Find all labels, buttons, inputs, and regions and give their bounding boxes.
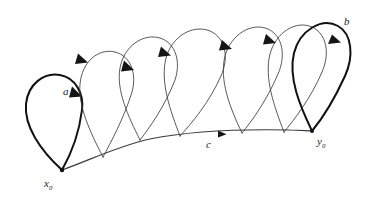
label-x0: x0 — [44, 178, 52, 192]
arrowhead-c — [218, 130, 227, 137]
loop-b-path — [292, 23, 350, 131]
arrowhead-3 — [121, 61, 134, 72]
loop-3-path — [119, 37, 177, 140]
arrowhead-2 — [75, 54, 88, 65]
node-y0 — [310, 129, 314, 133]
label-b: b — [344, 16, 350, 27]
label-c: c — [206, 139, 211, 150]
loop-diagram-svg — [0, 0, 366, 204]
arrowhead-b — [328, 35, 341, 45]
loop-4-path — [164, 29, 225, 136]
label-y0-subscript: 0 — [322, 142, 325, 149]
loop-6-path — [268, 25, 326, 132]
node-x0 — [60, 168, 64, 172]
arrowhead-6 — [263, 34, 276, 45]
label-a: a — [63, 86, 69, 97]
label-x0-subscript: 0 — [49, 184, 52, 191]
arrowhead-5 — [219, 40, 232, 51]
label-y0: y0 — [317, 136, 325, 150]
figure-canvas: a b c x0 y0 — [0, 0, 366, 204]
arrowhead-4 — [158, 47, 171, 58]
